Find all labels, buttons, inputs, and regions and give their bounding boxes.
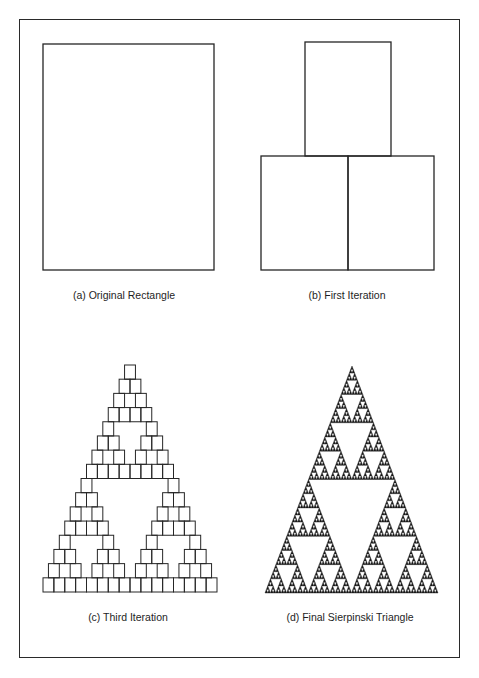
grid-square [103,422,114,436]
grid-square [195,578,206,592]
grid-square [179,564,190,578]
sierpinski-triangle [265,366,438,593]
grid-square [141,549,152,563]
grid-square [81,479,92,493]
grid-square [174,493,185,507]
grid-square [152,464,163,478]
grid-square [70,507,81,521]
grid-square [92,450,103,464]
grid-square [108,578,119,592]
caption-first-iteration: (b) First Iteration [308,289,385,301]
grid-square [125,365,136,379]
grid-square [76,521,87,535]
grid-square [97,436,108,450]
iteration-box [261,156,348,270]
grid-square [157,507,168,521]
grid-square [43,578,54,592]
grid-square [92,507,103,521]
grid-square [59,535,70,549]
grid-square [174,578,185,592]
grid-square [87,493,98,507]
grid-square [87,578,98,592]
grid-square [130,408,141,422]
grid-square [135,450,146,464]
grid-square [141,578,152,592]
figure-canvas [0,0,479,678]
grid-square [152,436,163,450]
original-rectangle [43,44,214,270]
grid-square [146,535,157,549]
grid-square [114,564,125,578]
grid-square [114,393,125,407]
grid-square [141,408,152,422]
grid-square [206,578,217,592]
grid-square [108,549,119,563]
grid-square [87,464,98,478]
grid-square [119,379,130,393]
grid-square [152,549,163,563]
grid-square [97,549,108,563]
first-iteration-boxes [261,42,434,270]
grid-square [184,578,195,592]
grid-square [119,464,130,478]
grid-square [48,564,59,578]
grid-square [114,450,125,464]
grid-square [76,578,87,592]
grid-square [130,578,141,592]
grid-square [174,521,185,535]
grid-square [190,535,201,549]
grid-square [135,393,146,407]
grid-square [179,507,190,521]
grid-square [87,521,98,535]
caption-third-iteration: (c) Third Iteration [88,611,168,623]
grid-square [157,564,168,578]
grid-square [141,436,152,450]
grid-square [65,521,76,535]
grid-square [130,379,141,393]
caption-original-rectangle: (a) Original Rectangle [73,289,175,301]
grid-square [184,549,195,563]
grid-square [108,436,119,450]
iteration-box [305,42,391,156]
grid-square [152,578,163,592]
caption-final-sierpinski: (d) Final Sierpinski Triangle [286,611,413,623]
grid-square [70,564,81,578]
grid-square [54,549,65,563]
grid-square [103,535,114,549]
grid-square [141,464,152,478]
grid-square [97,464,108,478]
grid-square [152,521,163,535]
grid-square [184,521,195,535]
grid-square [163,521,174,535]
grid-square [76,493,87,507]
grid-square [163,493,174,507]
grid-square [54,578,65,592]
grid-square [163,464,174,478]
grid-square [97,578,108,592]
grid-square [65,578,76,592]
grid-square [195,549,206,563]
grid-square [163,578,174,592]
grid-square [97,521,108,535]
grid-square [119,408,130,422]
third-iteration-grid [43,365,217,592]
grid-square [168,479,179,493]
grid-square [157,450,168,464]
grid-square [130,464,141,478]
iteration-box [348,156,434,270]
grid-square [135,564,146,578]
grid-square [92,564,103,578]
grid-square [201,564,212,578]
grid-square [108,408,119,422]
grid-square [108,464,119,478]
grid-square [146,422,157,436]
grid-square [65,549,76,563]
grid-square [119,578,130,592]
